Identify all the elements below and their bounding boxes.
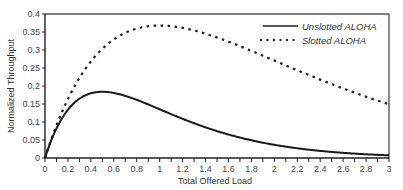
- x-tick-label: 0.2: [62, 164, 75, 174]
- x-tick-label: 1.4: [199, 164, 212, 174]
- x-tick-label: 0.8: [130, 164, 143, 174]
- x-axis-ticks: 00.20.40.60.811.21.41.61.822.22.42.62.83: [42, 158, 391, 174]
- y-axis-title: Normalized Throughput: [6, 39, 16, 133]
- y-tick-label: 0.1: [27, 117, 40, 127]
- throughput-chart: Normalized Throughput 00.050.10.150.20.2…: [0, 0, 403, 190]
- y-tick-label: 0.15: [22, 99, 40, 109]
- x-tick-label: 2.2: [291, 164, 304, 174]
- x-tick-label: 1.8: [245, 164, 258, 174]
- x-tick-label: 2.6: [337, 164, 350, 174]
- y-tick-label: 0: [35, 153, 40, 163]
- x-tick-label: 2.4: [314, 164, 327, 174]
- x-tick-label: 0: [42, 164, 47, 174]
- legend-label: Unslotted ALOHA: [302, 21, 377, 32]
- x-tick-label: 1.2: [176, 164, 189, 174]
- x-tick-label: 1.6: [222, 164, 235, 174]
- y-tick-label: 0.25: [22, 63, 40, 73]
- y-tick-label: 0.4: [27, 9, 40, 19]
- y-tick-label: 0.3: [27, 45, 40, 55]
- x-tick-label: 0.6: [108, 164, 121, 174]
- y-axis-ticks: 00.050.10.150.20.250.30.350.4: [22, 9, 45, 163]
- unslotted-aloha-line: [45, 92, 389, 158]
- x-axis-title: Total Offered Load: [178, 176, 252, 186]
- x-tick-label: 2.8: [360, 164, 373, 174]
- y-tick-label: 0.05: [22, 135, 40, 145]
- y-tick-label: 0.35: [22, 27, 40, 37]
- y-tick-label: 0.2: [27, 81, 40, 91]
- x-tick-label: 0.4: [85, 164, 98, 174]
- x-tick-label: 3: [386, 164, 391, 174]
- legend: Unslotted ALOHASlotted ALOHA: [260, 21, 377, 46]
- legend-label: Slotted ALOHA: [302, 35, 366, 46]
- x-tick-label: 2: [272, 164, 277, 174]
- x-tick-label: 1: [157, 164, 162, 174]
- y-axis-label: Normalized Throughput: [6, 39, 16, 133]
